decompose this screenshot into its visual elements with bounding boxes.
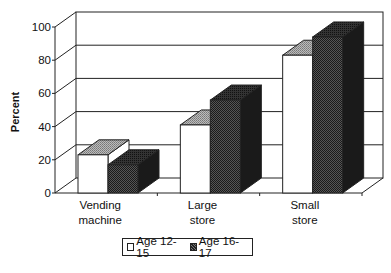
y-tick-label: 20	[38, 154, 51, 166]
y-tick-label: 40	[38, 121, 51, 133]
legend-label: Age 12-15	[136, 235, 183, 259]
y-axis: 020406080100	[32, 21, 51, 199]
y-tick-label: 80	[38, 54, 51, 66]
bar	[210, 85, 261, 193]
legend-item-age-12-15: Age 12-15	[127, 235, 184, 259]
y-tick-label: 60	[38, 87, 51, 99]
y-tick-label: 0	[45, 187, 51, 199]
chart-legend: Age 12-15 Age 16-17	[122, 238, 253, 256]
x-tick-label: store	[292, 214, 318, 226]
legend-swatch-white-icon	[127, 243, 134, 251]
y-tick-label: 100	[32, 21, 51, 33]
bar-chart: 020406080100 VendingmachineLargestoreSma…	[0, 0, 391, 273]
x-axis-labels: VendingmachineLargestoreSmallstore	[78, 199, 319, 226]
x-tick-label: Small	[290, 199, 319, 211]
chart-plot-area: 020406080100 VendingmachineLargestoreSma…	[0, 0, 391, 273]
legend-item-age-16-17: Age 16-17	[190, 235, 247, 259]
y-axis-title: Percent	[9, 91, 21, 132]
x-tick-label: Large	[188, 199, 217, 211]
x-tick-label: store	[190, 214, 216, 226]
legend-label: Age 16-17	[199, 235, 246, 259]
bar	[313, 22, 364, 193]
x-tick-label: Vending	[79, 199, 121, 211]
legend-swatch-dark-icon	[190, 243, 197, 251]
x-tick-label: machine	[78, 214, 121, 226]
